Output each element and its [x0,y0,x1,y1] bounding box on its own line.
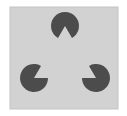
kanizsa-figure-container: Kanizsa Triangle Three dark pac-man disc… [0,0,127,116]
kanizsa-figure-svg [0,0,127,116]
